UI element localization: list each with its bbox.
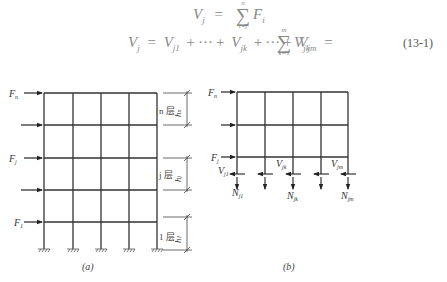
axial-label-Njm: Njm	[340, 190, 354, 202]
shear-label-Vj1: Vj1	[218, 165, 229, 177]
story-label-j: j 层	[158, 170, 173, 180]
fixed-support-icon	[123, 249, 135, 252]
force-label-Fn-b: Fn	[207, 87, 217, 99]
frame-diagram: Fn Fj F1 n 层 hn j 层 hj 1 层 h1 (a)	[0, 0, 447, 282]
shear-label-Vjm: Vjm	[331, 158, 344, 170]
caption-a: (a)	[82, 261, 94, 273]
caption-b: (b)	[283, 261, 295, 273]
force-arrows-a	[21, 93, 42, 222]
fixed-support-icon	[151, 249, 163, 252]
shear-label-Vjk: Vjk	[276, 158, 287, 170]
height-label-hj: hj	[173, 176, 183, 183]
axial-label-Njk: Njk	[286, 190, 298, 202]
axial-label-Nj1: Nj1	[231, 187, 243, 199]
force-label-Fj-b: Fj	[210, 152, 219, 164]
fixed-support-icon	[67, 249, 79, 252]
fixed-supports-a	[38, 249, 163, 252]
frame-a	[44, 93, 157, 249]
fixed-support-icon	[95, 249, 107, 252]
force-label-Fn: Fn	[8, 88, 18, 100]
axial-arrows-b	[237, 177, 348, 189]
fixed-support-icon	[38, 249, 50, 252]
force-label-Fj: Fj	[8, 153, 17, 165]
force-arrows-b	[221, 92, 235, 157]
force-label-F1: F1	[13, 217, 23, 229]
